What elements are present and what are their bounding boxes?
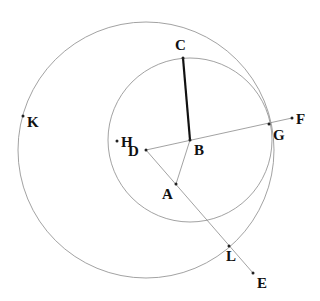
label-k: K	[27, 114, 39, 130]
point-d	[145, 149, 148, 152]
label-l: L	[226, 248, 236, 264]
segment-DF	[146, 118, 292, 150]
label-f: F	[296, 111, 305, 127]
label-h: H	[121, 134, 133, 150]
label-b: B	[194, 142, 204, 158]
point-a	[175, 183, 178, 186]
label-c: C	[175, 37, 186, 53]
segment-DE	[146, 150, 253, 273]
segment-BA	[176, 140, 190, 184]
point-c	[182, 57, 185, 60]
point-e	[252, 272, 255, 275]
point-k	[22, 115, 25, 118]
point-f	[291, 117, 294, 120]
label-e: E	[257, 275, 267, 291]
segment-CB	[183, 58, 190, 140]
label-g: G	[273, 127, 285, 143]
geometry-diagram: ABCDEFGHKL	[0, 0, 320, 301]
point-g	[268, 123, 271, 126]
point-b	[189, 139, 192, 142]
point-h	[116, 140, 119, 143]
label-a: A	[162, 186, 173, 202]
